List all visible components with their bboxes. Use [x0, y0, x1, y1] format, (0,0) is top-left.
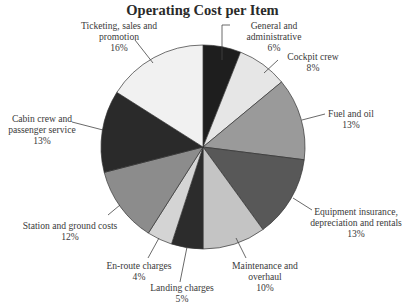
label-line: Equipment insurance, [308, 206, 404, 217]
label-line: promotion [78, 31, 160, 42]
pie-slices [101, 45, 305, 249]
label-pct: 16% [78, 42, 160, 53]
label-fuel-oil: Fuel and oil 13% [315, 108, 387, 130]
label-ticketing: Ticketing, sales and promotion 16% [78, 20, 160, 53]
pie-chart [0, 0, 405, 303]
label-line: administrative [226, 31, 322, 42]
label-pct: 13% [4, 135, 80, 146]
label-pct: 5% [140, 293, 224, 303]
label-line: Fuel and oil [315, 108, 387, 119]
label-line: Maintenance and [222, 260, 308, 271]
label-line: Cockpit crew [272, 51, 354, 62]
label-line: Cabin crew and [4, 113, 80, 124]
label-line: En-route charges [96, 260, 182, 271]
label-line: passenger service [4, 124, 80, 135]
label-station: Station and ground costs 12% [16, 220, 124, 242]
leader-station [108, 205, 120, 215]
label-line: depreciation and rentals [308, 217, 404, 228]
label-line: Landing charges [140, 282, 224, 293]
label-line: Ticketing, sales and [78, 20, 160, 31]
leader-enroute [148, 238, 159, 258]
label-pct: 13% [315, 119, 387, 130]
label-line: overhaul [222, 271, 308, 282]
label-pct: 4% [96, 271, 182, 282]
label-pct: 10% [222, 282, 308, 293]
label-pct: 13% [308, 228, 404, 239]
label-landing: Landing charges 5% [140, 282, 224, 303]
label-line: Station and ground costs [16, 220, 124, 231]
label-line: General and [226, 20, 322, 31]
label-equipment: Equipment insurance, depreciation and re… [308, 206, 404, 239]
label-pct: 12% [16, 231, 124, 242]
label-cockpit-crew: Cockpit crew 8% [272, 51, 354, 73]
label-cabin-crew: Cabin crew and passenger service 13% [4, 113, 80, 146]
label-enroute: En-route charges 4% [96, 260, 182, 282]
label-general-administrative: General and administrative 6% [226, 20, 322, 53]
label-maintenance: Maintenance and overhaul 10% [222, 260, 308, 293]
label-pct: 8% [272, 62, 354, 73]
